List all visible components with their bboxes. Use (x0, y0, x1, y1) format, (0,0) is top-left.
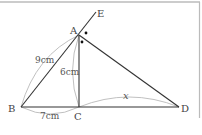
arc-CD-x (79, 97, 179, 107)
angle-mark-EAD-dot (85, 32, 88, 35)
segment-BE (21, 12, 96, 107)
measure-label-CD: x (123, 90, 129, 101)
geometry-diagram: E A B C D 9cm 6cm 7cm x (0, 0, 202, 135)
measure-label-AB: 9cm (35, 55, 55, 65)
measure-label-AC: 6cm (60, 67, 80, 77)
segment-AD (79, 35, 179, 107)
point-label-B: B (8, 103, 15, 114)
point-label-E: E (97, 8, 104, 19)
point-label-C: C (74, 111, 82, 122)
point-label-A: A (69, 25, 78, 36)
angle-mark-DAC-dot (81, 41, 84, 44)
point-label-D: D (181, 103, 189, 114)
measure-label-BC: 7cm (40, 111, 60, 121)
